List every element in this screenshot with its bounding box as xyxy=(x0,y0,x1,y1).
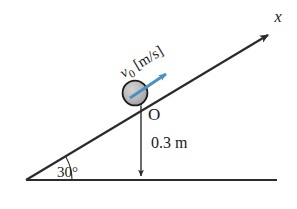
diagram-canvas: x v0 [m/s] O 0.3 m 30° xyxy=(0,0,297,209)
angle-label: 30° xyxy=(57,164,78,180)
velocity-units-text: [m/s] xyxy=(131,43,166,73)
axis-x-label: x xyxy=(273,8,281,25)
origin-label: O xyxy=(148,105,160,124)
incline-diagram-figure: x v0 [m/s] O 0.3 m 30° xyxy=(0,0,297,209)
height-label: 0.3 m xyxy=(151,134,188,151)
